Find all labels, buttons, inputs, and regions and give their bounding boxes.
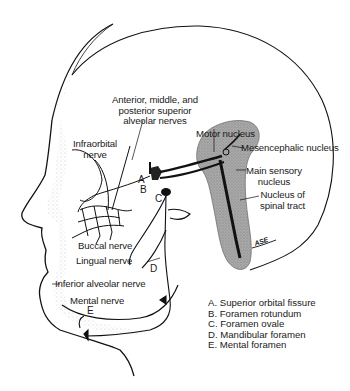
label-main-sensory-nucleus: Main sensory nucleus: [246, 166, 302, 187]
label-nucleus-spinal-tract: Nucleus of spinal tract: [260, 190, 305, 211]
label-line: nerve: [73, 150, 117, 161]
label-infraorbital-nerve: Infraorbital nerve: [73, 139, 117, 160]
label-inferior-alveolar-nerve: Inferior alveolar nerve: [55, 279, 146, 290]
label-lingual-nerve: Lingual nerve: [76, 256, 132, 267]
trigeminal-diagram: Anterior, middle, and posterior superior…: [0, 0, 350, 391]
foramen-letter-b: B: [140, 185, 147, 195]
legend-item-e: E. Mental foramen: [208, 340, 316, 351]
maxillary-branches: [72, 146, 150, 244]
label-buccal-nerve: Buccal nerve: [78, 241, 132, 252]
foramen-letter-d: D: [150, 264, 157, 274]
label-line: Main sensory: [246, 166, 302, 177]
label-mental-nerve: Mental nerve: [70, 296, 124, 307]
label-line: spinal tract: [260, 201, 305, 212]
label-superior-alveolar-nerves: Anterior, middle, and posterior superior…: [112, 95, 198, 127]
foramen-letter-c: C: [155, 194, 162, 204]
label-mesencephalic-nucleus: Mesencephalic nucleus: [241, 143, 339, 154]
foramen-letter-e: E: [87, 306, 94, 316]
legend-item-a: A. Superior orbital fissure: [208, 298, 316, 309]
foramen-legend: A. Superior orbital fissure B. Foramen r…: [208, 298, 316, 351]
label-line: Nucleus of: [260, 190, 305, 201]
label-line: nucleus: [246, 177, 302, 188]
label-line: alveolar nerves: [112, 116, 198, 127]
label-motor-nucleus: Motor nucleus: [196, 129, 255, 140]
label-line: Anterior, middle, and: [112, 95, 198, 106]
label-line: Infraorbital: [73, 139, 117, 150]
